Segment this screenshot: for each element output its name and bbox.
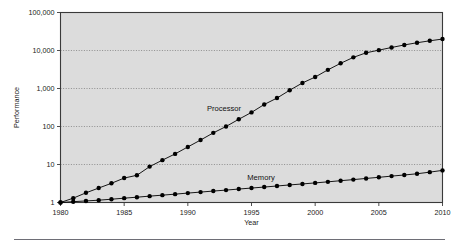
data-point xyxy=(173,192,177,196)
data-point xyxy=(351,55,355,59)
data-point xyxy=(173,152,177,156)
y-tick-label: 100 xyxy=(43,122,55,131)
x-tick-label: 2005 xyxy=(371,208,387,217)
data-point xyxy=(389,45,393,49)
data-point xyxy=(389,174,393,178)
data-point xyxy=(377,48,381,52)
data-point xyxy=(300,81,304,85)
data-point xyxy=(402,43,406,47)
data-point xyxy=(237,187,241,191)
x-axis-title: Year xyxy=(244,218,259,227)
data-point xyxy=(313,181,317,185)
data-point xyxy=(377,175,381,179)
data-point xyxy=(71,199,75,203)
data-point xyxy=(135,195,139,199)
chart-svg: 1101001,00010,000100,000 Performance 198… xyxy=(0,0,455,249)
x-tick-label: 2000 xyxy=(307,208,323,217)
data-point xyxy=(338,178,342,182)
data-point xyxy=(415,41,419,45)
data-point xyxy=(58,200,62,204)
data-point xyxy=(224,188,228,192)
data-point xyxy=(122,196,126,200)
performance-gap-figure: 1101001,00010,000100,000 Performance 198… xyxy=(0,0,455,249)
data-point xyxy=(288,88,292,92)
data-point xyxy=(211,131,215,135)
y-axis-title: Performance xyxy=(12,87,21,128)
data-point xyxy=(440,37,444,41)
data-point xyxy=(122,176,126,180)
data-point xyxy=(198,138,202,142)
x-tick-label: 2010 xyxy=(435,208,451,217)
data-point xyxy=(186,191,190,195)
data-point xyxy=(198,190,202,194)
data-point xyxy=(147,164,151,168)
data-point xyxy=(440,168,444,172)
data-point xyxy=(364,176,368,180)
data-point xyxy=(97,186,101,190)
data-point xyxy=(428,39,432,43)
data-point xyxy=(109,197,113,201)
data-point xyxy=(300,182,304,186)
y-tick-label: 10 xyxy=(47,160,55,169)
x-tick-label: 1980 xyxy=(53,208,69,217)
data-point xyxy=(160,193,164,197)
data-point xyxy=(135,173,139,177)
data-point xyxy=(288,183,292,187)
data-point xyxy=(186,145,190,149)
y-tick-label: 1 xyxy=(51,198,55,207)
data-point xyxy=(428,170,432,174)
y-tick-label: 10,000 xyxy=(33,46,55,55)
data-point xyxy=(262,185,266,189)
data-point xyxy=(338,61,342,65)
data-point xyxy=(326,180,330,184)
data-point xyxy=(275,184,279,188)
data-point xyxy=(224,124,228,128)
x-tick-label: 1990 xyxy=(180,208,196,217)
data-point xyxy=(275,96,279,100)
data-point xyxy=(84,191,88,195)
x-tick-label: 1995 xyxy=(244,208,260,217)
y-tick-label: 100,000 xyxy=(29,8,55,17)
data-point xyxy=(211,189,215,193)
data-point xyxy=(160,158,164,162)
data-point xyxy=(237,117,241,121)
processor-series-label: Processor xyxy=(207,104,242,113)
data-point xyxy=(97,198,101,202)
x-tick-label: 1985 xyxy=(116,208,132,217)
data-point xyxy=(313,75,317,79)
data-point xyxy=(402,173,406,177)
memory-series-label: Memory xyxy=(247,173,275,182)
data-point xyxy=(147,194,151,198)
data-point xyxy=(351,177,355,181)
data-point xyxy=(84,199,88,203)
data-point xyxy=(262,102,266,106)
data-point xyxy=(326,68,330,72)
data-point xyxy=(364,51,368,55)
data-point xyxy=(249,186,253,190)
y-tick-label: 1,000 xyxy=(37,84,55,93)
data-point xyxy=(109,181,113,185)
data-point xyxy=(249,110,253,114)
data-point xyxy=(415,172,419,176)
